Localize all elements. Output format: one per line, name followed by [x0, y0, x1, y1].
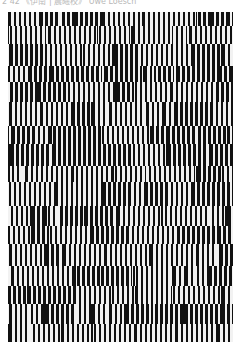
stripe-band: [8, 44, 233, 66]
stripe-segment: [170, 266, 182, 286]
stripe-segment: [182, 304, 220, 324]
stripe-segment: [43, 304, 76, 324]
stripe-segment: [97, 26, 130, 44]
stripe-segment: [101, 182, 129, 206]
stripe-segment: [232, 182, 233, 206]
stripe-segment: [165, 144, 207, 166]
stripe-segment: [34, 126, 49, 144]
stripe-segment: [182, 266, 194, 286]
stripe-segment: [149, 244, 196, 266]
stripe-segment: [166, 126, 197, 144]
stripe-segment: [8, 144, 51, 166]
stripe-segment: [190, 44, 221, 66]
stripe-segment: [145, 166, 195, 182]
stripe-segment: [177, 226, 202, 244]
stripe-segment: [60, 12, 75, 26]
stripe-segment: [196, 12, 210, 26]
stripe-segment: [217, 324, 233, 342]
stripe-segment: [108, 304, 124, 324]
stripe-segment: [226, 12, 233, 26]
stripe-segment: [210, 206, 225, 226]
stripe-segment: [8, 166, 22, 182]
stripe-segment: [217, 244, 233, 266]
stripe-segment: [112, 166, 145, 182]
stripe-segment: [141, 12, 162, 26]
stripe-segment: [231, 82, 233, 102]
stripe-segment: [8, 206, 28, 226]
stripe-band: [8, 102, 233, 126]
stripe-segment: [8, 26, 46, 44]
stripe-segment: [202, 226, 218, 244]
stripe-segment: [144, 182, 166, 206]
stripe-segment: [28, 206, 45, 226]
stripe-segment: [8, 12, 39, 26]
stripe-segment: [127, 226, 177, 244]
stripe-segment: [133, 82, 171, 102]
stripe-segment: [197, 126, 227, 144]
stripe-segment: [114, 206, 161, 226]
stripe-segment: [142, 66, 154, 82]
stripe-band: [8, 286, 233, 304]
stripe-segment: [174, 66, 215, 82]
stripe-segment: [225, 206, 233, 226]
stripe-segment: [171, 82, 216, 102]
stripe-segment: [101, 66, 142, 82]
stripe-segment: [175, 324, 217, 342]
op-art-poster: [8, 12, 233, 342]
stripe-segment: [8, 266, 44, 286]
stripe-band: [8, 324, 233, 342]
stripe-band: [8, 166, 233, 182]
stripe-band: [8, 126, 233, 144]
stripe-segment: [49, 226, 92, 244]
stripe-segment: [152, 304, 182, 324]
stripe-segment: [82, 44, 112, 66]
stripe-segment: [76, 304, 91, 324]
stripe-band: [8, 226, 233, 244]
stripe-band: [8, 26, 233, 44]
stripe-segment: [73, 166, 112, 182]
stripe-segment: [91, 324, 134, 342]
stripe-segment: [216, 82, 231, 102]
stripe-segment: [8, 102, 39, 126]
stripe-segment: [70, 102, 91, 126]
stripe-segment: [39, 102, 70, 126]
stripe-segment: [8, 324, 30, 342]
stripe-segment: [154, 66, 174, 82]
stripe-segment: [8, 226, 31, 244]
stripe-band: [8, 206, 233, 226]
stripe-segment: [172, 286, 221, 304]
stripe-segment: [26, 286, 77, 304]
stripe-segment: [195, 166, 222, 182]
stripe-band: [8, 304, 233, 324]
stripe-segment: [51, 66, 101, 82]
stripe-band: [8, 266, 233, 286]
stripe-segment: [221, 44, 233, 66]
stripe-segment: [44, 244, 61, 266]
stripe-segment: [172, 26, 187, 44]
stripe-segment: [213, 102, 233, 126]
stripe-segment: [8, 286, 26, 304]
stripe-segment: [160, 102, 172, 126]
stripe-segment: [8, 244, 44, 266]
stripe-segment: [68, 82, 115, 102]
stripe-segment: [221, 286, 233, 304]
stripe-segment: [150, 126, 166, 144]
stripe-segment: [111, 286, 135, 304]
stripe-segment: [91, 102, 108, 126]
stripe-segment: [60, 324, 91, 342]
stripe-segment: [227, 66, 233, 82]
stripe-segment: [102, 126, 150, 144]
stripe-segment: [103, 12, 141, 26]
stripe-segment: [29, 66, 51, 82]
stripe-segment: [124, 304, 152, 324]
stripe-segment: [31, 226, 49, 244]
stripe-segment: [130, 26, 172, 44]
stripe-segment: [132, 266, 170, 286]
stripe-segment: [98, 266, 132, 286]
stripe-segment: [30, 324, 60, 342]
stripe-segment: [222, 166, 233, 182]
stripe-segment: [38, 82, 68, 102]
stripe-segment: [227, 126, 233, 144]
stripe-segment: [140, 44, 190, 66]
stripe-band: [8, 12, 233, 26]
